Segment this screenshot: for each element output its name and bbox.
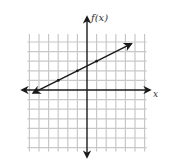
graph xyxy=(0,0,182,161)
y-axis-label: f(x) xyxy=(91,12,108,23)
x-axis-label: x xyxy=(153,89,158,99)
axes xyxy=(22,17,150,157)
